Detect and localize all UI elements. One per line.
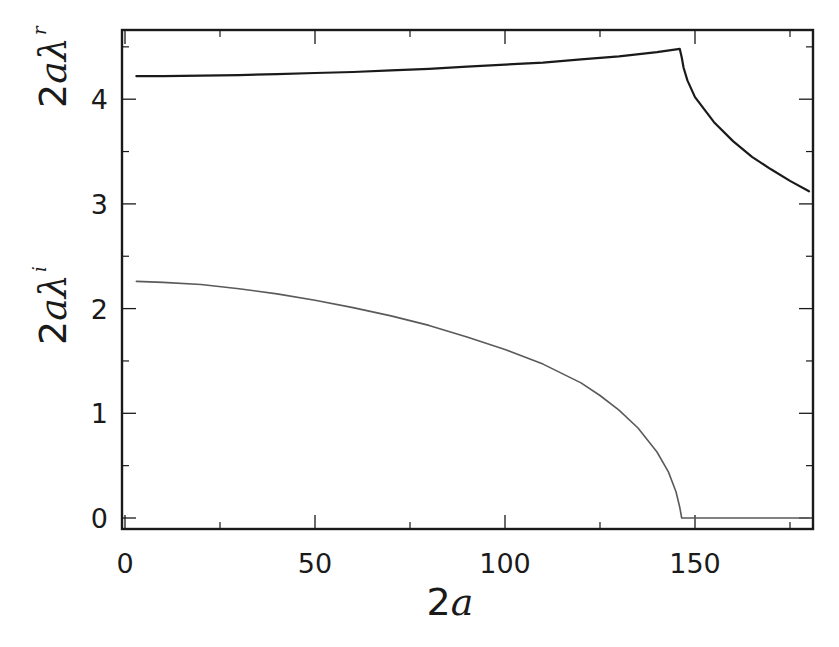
axis-ticks: [122, 30, 813, 529]
x-axis-label-number: 2: [427, 580, 451, 624]
tick-labels: 05010015001234: [91, 84, 721, 579]
svg-text:2aλi: 2aλi: [29, 266, 75, 345]
x-axis-label: 2a: [427, 580, 474, 624]
y-tick-label: 1: [91, 398, 108, 429]
y-tick-label: 0: [91, 503, 108, 534]
x-tick-label: 100: [479, 548, 531, 579]
x-tick-label: 0: [116, 548, 133, 579]
y-label-real-subscript: r: [29, 25, 50, 35]
plot-border: [122, 30, 813, 529]
y-label-real-variable: aλ: [31, 37, 75, 84]
x-tick-label: 50: [298, 548, 332, 579]
y-label-imag-subscript: i: [29, 266, 50, 272]
plot-frame: [122, 30, 813, 529]
data-series: [136, 49, 809, 518]
y-tick-label: 3: [91, 189, 108, 220]
y-label-real-number: 2: [31, 84, 75, 108]
series-real-part-line: [136, 49, 809, 191]
y-tick-label: 4: [91, 84, 108, 115]
y-axis-label-real: 2aλr: [29, 25, 75, 108]
x-axis-label-variable: a: [451, 580, 474, 624]
y-axis-label-imag: 2aλi: [29, 266, 75, 345]
y-tick-label: 2: [91, 294, 108, 325]
y-label-imag-variable: aλ: [31, 274, 75, 321]
line-chart: 05010015001234 2a 2aλr 2aλi: [0, 0, 839, 647]
series-imag-part-line: [136, 281, 809, 518]
x-tick-label: 150: [669, 548, 721, 579]
svg-text:2aλr: 2aλr: [29, 25, 75, 108]
y-label-imag-number: 2: [31, 321, 75, 345]
